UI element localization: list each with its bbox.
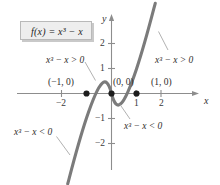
x-tick-label-1: 1 [134,99,139,109]
leader-pos-right [159,32,169,51]
y-tick-label-2: 2 [100,39,105,49]
x-tick-label-2: 2 [159,99,164,109]
point-label-0-0: (0, 0) [113,78,134,88]
x-axis [17,90,199,97]
equation-callout: f(x) = x³ − x [20,21,92,40]
annotation-negative-left: x³ − x < 0 [14,128,52,138]
y-tick-label--1: −1 [95,114,105,124]
point-label-1-0: (1, 0) [151,78,172,88]
y-axis-label: y [102,14,106,24]
point-1-0 [133,90,139,96]
leader-neg-right [120,105,130,120]
annotation-positive-right: x³ − x > 0 [155,56,193,66]
equation-text: f(x) = x³ − x [21,22,93,41]
point-0-0 [108,90,114,96]
y-tick-label--2: −2 [95,139,105,149]
y-tick-label-1: 1 [100,64,105,74]
x-tick-label--2: −2 [56,99,66,109]
annotation-negative-right: x³ − x < 0 [124,122,162,132]
leader-neg-left [57,137,71,156]
leader-pos-left [85,62,96,81]
graph-figure: f(x) = x³ − x x y −2 1 2 2 1 −1 −2 (−1, … [0,0,220,185]
x-axis-label: x [204,96,208,106]
point-label-neg1-0: (−1, 0) [48,78,74,88]
point-neg1-0 [83,90,89,96]
annotation-positive-left: x³ − x > 0 [46,56,84,66]
